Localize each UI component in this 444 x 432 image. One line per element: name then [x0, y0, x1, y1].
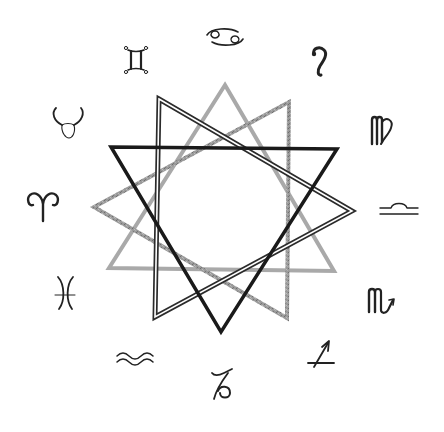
light-gray-triangle: [109, 85, 334, 271]
cancer-icon: [207, 29, 243, 45]
scorpio-icon: [369, 289, 394, 313]
virgo-icon: [372, 117, 392, 144]
taurus-icon: [54, 108, 83, 138]
zodiac-star-diagram: Enneagram / Nine-pointed star with zodia…: [0, 0, 444, 432]
libra-icon: [380, 204, 418, 215]
aquarius-icon: [117, 353, 153, 365]
star-figure: [0, 0, 444, 432]
aries-icon: [28, 193, 58, 221]
capricorn-icon: [212, 369, 232, 399]
gemini-icon: [124, 46, 147, 73]
pisces-icon: [55, 277, 75, 309]
leo-icon: [312, 48, 326, 75]
sagittarius-icon: [308, 341, 334, 367]
